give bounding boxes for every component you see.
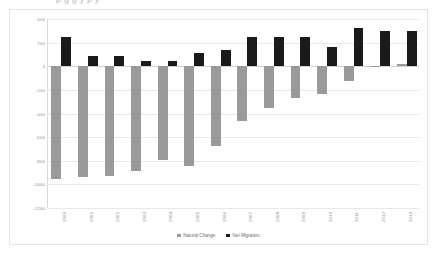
legend-swatch-icon bbox=[177, 234, 181, 238]
y-axis-tick-label: -400 bbox=[11, 111, 45, 116]
bar-group bbox=[131, 19, 151, 208]
bar-natural-change-2007 bbox=[237, 66, 247, 121]
x-axis-tick-label: 2005 bbox=[195, 212, 200, 222]
bar-net-migration-2003 bbox=[141, 61, 151, 67]
bar-natural-change-2002 bbox=[105, 66, 115, 175]
bar-natural-change-2001 bbox=[78, 66, 88, 176]
bar-net-migration-2010 bbox=[327, 47, 337, 66]
legend-label: Net Migration bbox=[233, 233, 260, 238]
bar-net-migration-2008 bbox=[274, 37, 284, 66]
legend-item[interactable]: Natural Change bbox=[177, 233, 215, 238]
y-axis-label-group: 4002000-200-400-600-800-1000-1200 bbox=[10, 19, 45, 208]
bar-natural-change-2004 bbox=[158, 66, 168, 160]
bar-group bbox=[237, 19, 257, 208]
y-axis-tick-label: 200 bbox=[11, 40, 45, 45]
bar-group bbox=[51, 19, 71, 208]
chart-frame: 4002000-200-400-600-800-1000-1200 200020… bbox=[9, 9, 428, 245]
bar-group bbox=[105, 19, 125, 208]
bar-natural-change-2005 bbox=[184, 66, 194, 166]
clipped-title-strip: p g g y p y bbox=[0, 0, 439, 7]
y-axis-tick-label: -1200 bbox=[11, 206, 45, 211]
x-axis-tick-label: 2006 bbox=[222, 212, 227, 222]
x-axis-tick-label: 2001 bbox=[89, 212, 94, 222]
bar-natural-change-2012 bbox=[370, 66, 380, 67]
x-axis-tick-label: 2013 bbox=[408, 212, 413, 222]
bar-net-migration-2007 bbox=[247, 37, 257, 66]
legend-swatch-icon bbox=[226, 234, 230, 238]
bar-natural-change-2010 bbox=[317, 66, 327, 93]
x-axis-tick-label: 2007 bbox=[248, 212, 253, 222]
x-axis-tick-label: 2008 bbox=[275, 212, 280, 222]
bar-group bbox=[370, 19, 390, 208]
bar-net-migration-2004 bbox=[168, 61, 178, 66]
bar-group bbox=[397, 19, 417, 208]
y-axis-tick-label: -1000 bbox=[11, 182, 45, 187]
bar-natural-change-2009 bbox=[291, 66, 301, 97]
legend-item[interactable]: Net Migration bbox=[226, 233, 259, 238]
bar-net-migration-2006 bbox=[221, 50, 231, 66]
bar-net-migration-2000 bbox=[61, 37, 71, 66]
x-axis-tick-label: 2010 bbox=[328, 212, 333, 222]
x-axis-tick-label: 2012 bbox=[381, 212, 386, 222]
chart-legend: Natural ChangeNet Migration bbox=[10, 233, 427, 238]
bar-group bbox=[158, 19, 178, 208]
bar-natural-change-2000 bbox=[51, 66, 61, 179]
y-axis-tick-label: -800 bbox=[11, 158, 45, 163]
bar-net-migration-2005 bbox=[194, 53, 204, 66]
bar-group bbox=[317, 19, 337, 208]
bar-net-migration-2011 bbox=[354, 28, 364, 66]
clipped-title-text: p g g y p y bbox=[56, 0, 100, 4]
bar-natural-change-2006 bbox=[211, 66, 221, 146]
bar-net-migration-2001 bbox=[88, 56, 98, 66]
plot-area bbox=[47, 19, 419, 208]
bar-group bbox=[184, 19, 204, 208]
x-axis-tick-label: 2011 bbox=[354, 212, 359, 222]
bar-natural-change-2003 bbox=[131, 66, 141, 171]
bar-group bbox=[264, 19, 284, 208]
x-axis-tick-label: 2002 bbox=[115, 212, 120, 222]
x-axis-tick-label: 2004 bbox=[168, 212, 173, 222]
bar-natural-change-2008 bbox=[264, 66, 274, 108]
y-axis-tick-label: -200 bbox=[11, 87, 45, 92]
bar-natural-change-2011 bbox=[344, 66, 354, 81]
x-axis-tick-label: 2003 bbox=[142, 212, 147, 222]
bar-net-migration-2012 bbox=[380, 31, 390, 66]
y-axis-tick-label: 0 bbox=[11, 64, 45, 69]
bar-group bbox=[291, 19, 311, 208]
x-axis-label-group: 2000200120022003200420052006200720082009… bbox=[47, 209, 419, 233]
x-axis-tick-label: 2000 bbox=[62, 212, 67, 222]
legend-label: Natural Change bbox=[183, 233, 215, 238]
bar-net-migration-2013 bbox=[407, 31, 417, 66]
bar-net-migration-2009 bbox=[300, 37, 310, 67]
bar-natural-change-2013 bbox=[397, 64, 407, 67]
bar-net-migration-2002 bbox=[114, 56, 124, 67]
bar-group bbox=[344, 19, 364, 208]
x-axis-tick-label: 2009 bbox=[301, 212, 306, 222]
bar-group bbox=[211, 19, 231, 208]
bar-group bbox=[78, 19, 98, 208]
y-axis-tick-label: -600 bbox=[11, 135, 45, 140]
y-axis-tick-label: 400 bbox=[11, 17, 45, 22]
